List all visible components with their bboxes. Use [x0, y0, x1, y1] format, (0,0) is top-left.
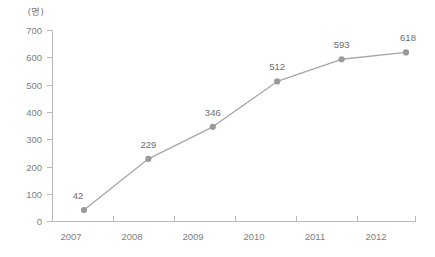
- data-series-line: [84, 52, 406, 210]
- y-tick-label-300: 300: [26, 134, 42, 145]
- data-point-marker-2012: [403, 49, 409, 55]
- y-tick-label-700: 700: [26, 25, 42, 36]
- line-chart-svg: (명) 700 600 500 400 300 200 100 0: [0, 0, 435, 257]
- data-point-label-2008: 229: [140, 139, 156, 150]
- y-axis-unit-label: (명): [28, 6, 44, 17]
- data-point-label-2011: 593: [334, 39, 350, 50]
- y-tick-label-0: 0: [37, 216, 42, 227]
- x-tick-label-2008: 2008: [121, 231, 142, 242]
- y-tick-label-500: 500: [26, 80, 42, 91]
- y-axis-ticks: [47, 31, 53, 222]
- y-axis-tick-labels: 700 600 500 400 300 200 100 0: [26, 25, 42, 227]
- data-point-marker-2009: [210, 124, 216, 130]
- data-point-marker-2010: [274, 78, 280, 84]
- x-tick-label-2012: 2012: [365, 231, 386, 242]
- y-tick-label-100: 100: [26, 189, 42, 200]
- y-tick-label-400: 400: [26, 107, 42, 118]
- data-point-marker-2007: [81, 207, 87, 213]
- data-point-label-2007: 42: [73, 190, 84, 201]
- data-point-marker-2011: [339, 56, 345, 62]
- y-tick-label-200: 200: [26, 162, 42, 173]
- data-point-label-2009: 346: [205, 107, 221, 118]
- data-point-marker-2008: [145, 156, 151, 162]
- x-tick-label-2007: 2007: [60, 231, 81, 242]
- x-tick-label-2009: 2009: [182, 231, 203, 242]
- x-tick-label-2010: 2010: [243, 231, 264, 242]
- data-point-markers: [81, 49, 409, 213]
- x-axis-tick-labels: 2007 2008 2009 2010 2011 2012: [60, 231, 386, 242]
- data-point-label-2010: 512: [269, 61, 285, 72]
- data-point-labels: 42229346512593618: [73, 32, 416, 201]
- y-tick-label-600: 600: [26, 52, 42, 63]
- line-chart-container: (명) 700 600 500 400 300 200 100 0: [0, 0, 435, 257]
- data-point-label-2012: 618: [400, 32, 416, 43]
- x-tick-label-2011: 2011: [305, 231, 325, 242]
- x-axis-ticks: [114, 216, 358, 222]
